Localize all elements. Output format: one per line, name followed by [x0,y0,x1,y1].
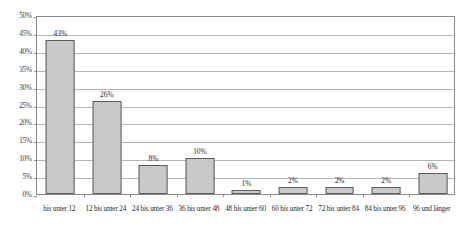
bar-value-label: 10% [193,147,207,156]
x-axis-tick-mark [177,194,178,197]
x-axis-tick-mark [84,194,85,197]
x-axis-category-label: 84 bis unter 96 [362,205,409,213]
bar-slot: 26% [84,17,131,194]
bar-value-label: 2% [335,176,345,185]
bar-value-label: 8% [148,154,158,163]
bar [46,40,75,194]
bar-value-label: 2% [381,176,391,185]
plot-area: 43%26%8%10%1%2%2%2%6% [36,16,455,195]
bar-value-label: 43% [53,29,67,38]
y-axis-tick-label: 45% [0,30,32,38]
bar [325,187,354,194]
x-axis-tick-mark [409,194,410,197]
y-axis-tick-label: 25% [0,102,32,110]
bar-value-label: 26% [100,90,114,99]
x-axis-tick-mark [130,194,131,197]
y-axis: 0%5%10%15%20%25%30%35%40%45%50% [0,16,36,195]
y-axis-tick-mark [34,196,37,197]
bar [139,165,168,194]
y-axis-tick-label: 50% [0,12,32,20]
x-axis: bis unter 1212 bis unter 2424 bis unter … [36,205,455,219]
bar-slot: 2% [363,17,410,194]
bar-slot: 43% [37,17,84,194]
y-axis-tick-label: 40% [0,48,32,56]
bar-value-label: 2% [288,176,298,185]
x-axis-category-label: 36 bis unter 48 [176,205,223,213]
x-axis-category-label: bis unter 12 [36,205,83,213]
y-axis-tick-label: 20% [0,119,32,127]
bar [418,173,447,194]
x-axis-category-label: 12 bis unter 24 [83,205,130,213]
bar-chart: 0%5%10%15%20%25%30%35%40%45%50% 43%26%8%… [0,0,476,225]
bar-slot: 2% [316,17,363,194]
y-axis-tick-label: 35% [0,66,32,74]
x-axis-category-label: 96 und länger [408,205,455,213]
bar-slot: 1% [223,17,270,194]
bar-slot: 10% [177,17,224,194]
bar-slot: 8% [130,17,177,194]
bar [92,101,121,194]
y-axis-tick-label: 10% [0,155,32,163]
bar-slot: 2% [270,17,317,194]
x-axis-category-label: 72 bis unter 84 [315,205,362,213]
bar-slot: 6% [409,17,456,194]
x-axis-category-label: 24 bis unter 36 [129,205,176,213]
bar [279,187,308,194]
x-axis-category-label: 60 bis unter 72 [269,205,316,213]
x-axis-tick-mark [223,194,224,197]
x-axis-category-label: 48 bis unter 60 [222,205,269,213]
bar [372,187,401,194]
y-axis-tick-label: 5% [0,173,32,181]
bar [232,190,261,194]
y-axis-tick-label: 15% [0,137,32,145]
y-axis-tick-label: 30% [0,84,32,92]
bar-value-label: 6% [428,162,438,171]
x-axis-tick-mark [270,194,271,197]
y-axis-tick-label: 0% [0,191,32,199]
x-axis-tick-mark [316,194,317,197]
x-axis-tick-mark [363,194,364,197]
bar-value-label: 1% [242,179,252,188]
bar [186,158,215,194]
